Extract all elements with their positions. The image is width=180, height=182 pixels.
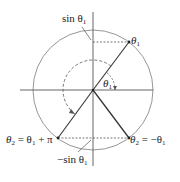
origin-point bbox=[92, 89, 94, 91]
neg-sin-theta1-label: −sin θ1 bbox=[57, 153, 88, 167]
radius-neg-theta1 bbox=[93, 90, 129, 138]
point-theta1-plus-pi bbox=[57, 137, 60, 140]
radius-theta1-plus-pi bbox=[58, 90, 93, 138]
sin-theta1-label: sin θ1 bbox=[62, 12, 87, 26]
point-theta1 bbox=[128, 41, 131, 44]
unit-circle-diagram: sin θ1 θ1 θ1 θ2 = −θ1 θ2 = θ1 + π −sin θ… bbox=[0, 0, 180, 182]
theta1-angle-label: θ1 bbox=[103, 77, 112, 91]
theta2-theta1-plus-pi-label: θ2 = θ1 + π bbox=[6, 133, 53, 147]
theta1-point-label: θ1 bbox=[131, 34, 140, 48]
theta2-neg-theta1-label: θ2 = −θ1 bbox=[130, 133, 166, 147]
theta1-arc-arrowhead-icon bbox=[113, 86, 117, 90]
sin-theta1-leader bbox=[82, 27, 91, 40]
